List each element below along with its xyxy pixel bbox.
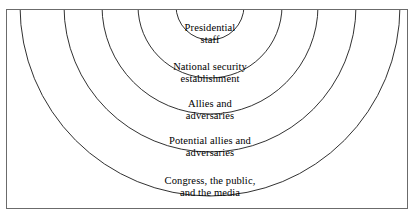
ring-label: National securityestablishment (173, 61, 247, 86)
ring-label: Allies andadversaries (186, 98, 234, 123)
ring-label-line: and the media (165, 187, 256, 199)
ring-label-line: Presidential (185, 22, 236, 34)
ring-label-line: adversaries (169, 147, 251, 159)
ring-label-line: adversaries (186, 110, 234, 122)
ring-label-line: Congress, the public, (165, 175, 256, 187)
figure-root: PresidentialstaffNational securityestabl… (0, 0, 416, 224)
ring-labels-layer: PresidentialstaffNational securityestabl… (7, 10, 407, 208)
ring-label: Presidentialstaff (185, 22, 236, 47)
ring-label: Congress, the public,and the media (165, 175, 256, 200)
ring-label-line: establishment (173, 73, 247, 85)
figure-frame: PresidentialstaffNational securityestabl… (6, 9, 408, 209)
ring-label-line: Allies and (186, 98, 234, 110)
ring-label-line: National security (173, 61, 247, 73)
ring-label: Potential allies andadversaries (169, 135, 251, 160)
ring-label-line: staff (185, 34, 236, 46)
ring-label-line: Potential allies and (169, 135, 251, 147)
